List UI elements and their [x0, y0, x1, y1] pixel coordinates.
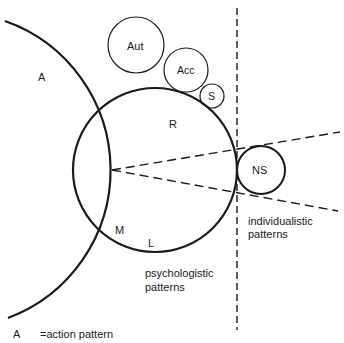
individualistic-caption-line1: individualistic: [248, 215, 313, 227]
region-label-a: A: [38, 71, 45, 83]
aut-circle-label: Aut: [127, 40, 144, 52]
individualistic-caption-line2: patterns: [248, 228, 288, 240]
psychologistic-circle: [73, 88, 237, 252]
legend-definition: =action pattern: [40, 328, 113, 340]
psychologistic-caption-line1: psychologistic: [145, 267, 213, 279]
region-label-r: R: [169, 118, 177, 130]
action-pattern-arc: [5, 21, 111, 318]
region-label-m: M: [115, 224, 124, 236]
lower-dashed-ray: [112, 170, 338, 211]
upper-dashed-ray: [112, 132, 340, 170]
region-label-l: L: [148, 237, 154, 249]
acc-circle-label: Acc: [177, 64, 195, 76]
s-circle-label: S: [208, 90, 215, 102]
ns-circle-label: NS: [252, 164, 267, 176]
legend-key: A: [13, 328, 20, 340]
psychologistic-caption-line2: patterns: [145, 281, 185, 293]
